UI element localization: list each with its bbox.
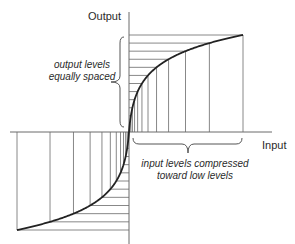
input-levels-annotation: input levels compressed toward low level… [140,158,250,182]
input-levels-brace-icon [133,138,242,153]
x-axis-label: Input [262,139,286,151]
output-annotation-line-1: output levels [44,59,120,71]
input-annotation-line-2: toward low levels [140,170,250,182]
compander-diagram [0,0,295,244]
output-levels-annotation: output levels equally spaced [44,59,120,83]
axes [10,12,272,244]
output-annotation-line-2: equally spaced [44,71,120,83]
y-axis-label: Output [88,10,121,22]
input-annotation-line-1: input levels compressed [140,158,250,170]
